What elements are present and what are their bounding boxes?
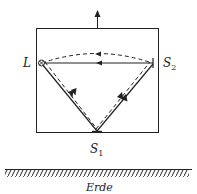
label-S2-sub: 2 — [171, 63, 176, 72]
dashed-S1-S2-path — [96, 62, 150, 129]
label-S1-base: S — [90, 142, 98, 156]
dashed-arc-path — [42, 54, 152, 64]
source-circle-cross-icon — [39, 60, 45, 66]
label-S2: S2 — [163, 57, 176, 72]
label-ground: Erde — [86, 182, 113, 193]
dashed-L-S1-path — [45, 62, 97, 129]
hatched-ground-icon — [5, 170, 192, 178]
solid-L-S1-path — [42, 64, 97, 131]
light-clock-diagram — [0, 0, 197, 194]
arrowhead-icon — [96, 61, 102, 66]
label-ground-text: Erde — [86, 181, 113, 194]
label-L-text: L — [23, 56, 31, 70]
label-S2-base: S — [163, 56, 171, 70]
arrowhead-icon — [95, 52, 101, 57]
arrowhead-icon — [117, 92, 124, 100]
label-S1: S1 — [90, 143, 103, 158]
upward-velocity-arrow-icon — [95, 10, 101, 28]
label-L: L — [23, 57, 31, 69]
label-S1-sub: 1 — [98, 149, 103, 158]
